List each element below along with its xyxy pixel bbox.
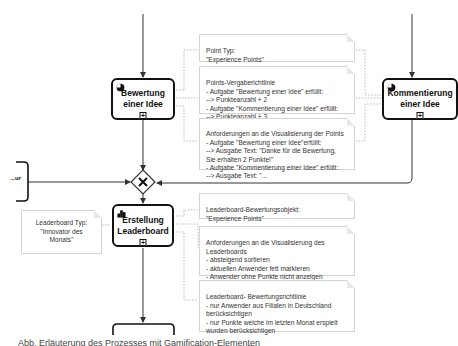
task-bewertung-einer-idee[interactable]: Bewertung einer Idee + (111, 78, 175, 120)
note-leaderboard-type: Leaderboard Typ: "Innovator des Monats" (21, 210, 102, 254)
task-kommentierung-einer-idee[interactable]: Kommentierung einer Idee + (382, 78, 458, 120)
task-left-cut[interactable]: ...ur (10, 175, 21, 181)
service-task-icon (116, 83, 125, 92)
task-erstellung-leaderboard[interactable]: Erstellung Leaderboard + (112, 204, 174, 247)
subprocess-plus-icon[interactable]: + (140, 239, 147, 246)
note-points-rule: Points-Vergaberichtlinie - Aufgabe "Bewe… (199, 66, 355, 114)
note-text: Anforderungen an die Visualisierung der … (206, 130, 344, 179)
note-text: Leaderboard Typ: "Innovator des Monats" (28, 219, 95, 244)
leaderboard-podium-icon (117, 209, 126, 218)
subprocess-plus-icon[interactable]: + (140, 112, 147, 119)
figure-caption: Abb. Erläuterung des Prozesses mit Gamif… (18, 338, 448, 346)
note-points-visual: Anforderungen an die Visualisierung der … (199, 118, 355, 170)
subprocess-plus-icon[interactable]: + (417, 112, 424, 119)
exclusive-gateway (131, 170, 155, 194)
note-text: Leaderboard- Bewertungsrichtlinie - nur … (206, 293, 338, 334)
note-text: Point Typ: "Experience Points" (206, 47, 264, 62)
note-text: Points-Vergaberichtlinie - Aufgabe "Bewe… (206, 79, 338, 120)
note-point-type: Point Typ: "Experience Points" (199, 34, 355, 62)
note-text: Anforderungen an die Visualisierung des … (206, 239, 325, 280)
note-leaderboard-rule: Leaderboard- Bewertungsrichtlinie - nur … (199, 280, 355, 332)
task-label: ...ur (10, 175, 21, 181)
note-leaderboard-visual: Anforderungen an die Visualisierung des … (199, 226, 355, 276)
service-task-icon (387, 83, 396, 92)
note-leaderboard-object: Leaderboard-Bewertungsobjekt: "Experienc… (199, 193, 355, 219)
